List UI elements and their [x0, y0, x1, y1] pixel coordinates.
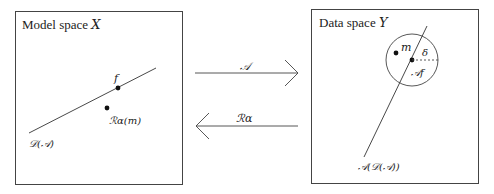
diagram-canvas: Model space X f ℛα(m) 𝒟(𝒜) 𝒜 ℛα Data spa…: [0, 0, 494, 194]
point-r-alpha-m: [105, 106, 110, 111]
point-r-alpha-m-label: ℛα(m): [109, 115, 141, 126]
range-line-label: 𝒜(𝒟(𝒜)): [358, 161, 400, 172]
point-m: [394, 51, 399, 56]
backward-arrow: ℛα: [196, 112, 298, 139]
data-space-panel: Data space Y δ 𝒜f m 𝒜(𝒟(𝒜)): [312, 10, 479, 184]
point-m-label: m: [401, 41, 411, 54]
forward-arrow: 𝒜: [195, 60, 298, 86]
model-space-title: Model space X: [22, 17, 101, 32]
point-af-label: 𝒜f: [411, 67, 426, 78]
model-space-frame: [16, 12, 183, 185]
data-space-title: Data space Y: [319, 15, 389, 30]
range-line: [364, 26, 427, 157]
radius-label: δ: [422, 47, 428, 58]
backward-arrow-label: ℛα: [236, 112, 253, 125]
forward-arrow-label: 𝒜: [240, 60, 254, 73]
domain-line-label: 𝒟(𝒜): [29, 138, 54, 149]
point-f-label: f: [113, 72, 120, 85]
model-space-panel: Model space X f ℛα(m) 𝒟(𝒜): [16, 12, 183, 185]
data-space-frame: [312, 10, 479, 184]
point-f: [116, 86, 121, 91]
